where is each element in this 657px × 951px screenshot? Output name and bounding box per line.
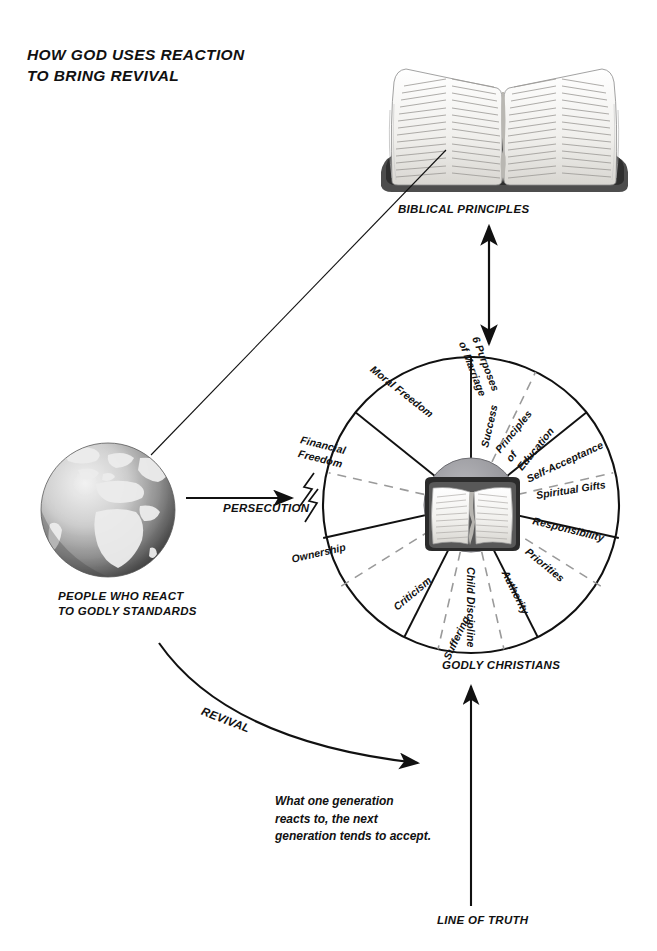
page-title: HOW GOD USES REACTION TO BRING REVIVAL: [27, 44, 327, 86]
globe-icon: [41, 443, 175, 577]
quote-block: What one generation reacts to, the next …: [275, 793, 490, 846]
label-people-who-react-line-1: PEOPLE WHO REACT: [58, 589, 238, 604]
quote-line-2: reacts to, the next: [275, 811, 490, 829]
diagram-canvas: HOW GOD USES REACTION TO BRING REVIVAL B…: [0, 0, 657, 951]
quote-line-1: What one generation: [275, 793, 490, 811]
label-persecution: PERSECUTION: [223, 502, 309, 514]
page-title-line-2: TO BRING REVIVAL: [27, 65, 327, 86]
wheel-segment-child-discipline: Child Discipline: [465, 567, 477, 647]
label-people-who-react: PEOPLE WHO REACT TO GODLY STANDARDS: [58, 589, 238, 619]
open-bible-icon-top: [381, 69, 628, 192]
label-godly-christians: GODLY CHRISTIANS: [442, 659, 560, 671]
page-title-line-1: HOW GOD USES REACTION: [27, 44, 327, 65]
arrow-revival-curve: [159, 643, 418, 763]
lightning-bolt-icon: [300, 473, 318, 522]
quote-line-3: generation tends to accept.: [275, 828, 490, 846]
label-biblical-principles: BIBLICAL PRINCIPLES: [398, 203, 529, 215]
label-line-of-truth: LINE OF TRUTH: [437, 914, 528, 926]
label-people-who-react-line-2: TO GODLY STANDARDS: [58, 604, 238, 619]
open-bible-icon-hub: [425, 477, 520, 551]
